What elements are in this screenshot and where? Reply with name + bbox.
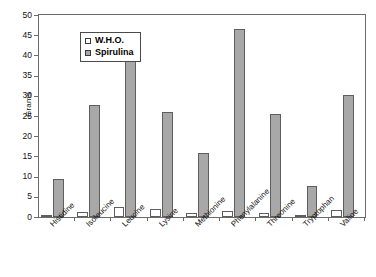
x-tick-mark	[328, 217, 329, 221]
bar-spirulina	[343, 95, 354, 217]
x-tick-mark	[364, 217, 365, 221]
y-tick-label: 10	[10, 172, 32, 181]
x-tick-mark	[183, 217, 184, 221]
bar-group	[39, 15, 75, 217]
bar-who	[295, 215, 306, 217]
bar-group	[256, 15, 292, 217]
x-tick-mark	[255, 217, 256, 221]
bar-spirulina	[162, 112, 173, 217]
bar-who	[331, 210, 342, 217]
y-tick-label: 50	[10, 11, 32, 20]
plot-area: W.H.O. Spirulina	[38, 14, 366, 218]
bar-spirulina	[125, 44, 136, 217]
legend-item-spirulina: Spirulina	[85, 48, 134, 57]
y-tick-label: 25	[10, 112, 32, 121]
bar-spirulina	[270, 114, 281, 217]
x-tick-mark	[110, 217, 111, 221]
y-tick-label: 5	[10, 192, 32, 201]
legend-swatch-spirulina-icon	[85, 50, 91, 56]
bar-group	[293, 15, 329, 217]
y-axis-title: Grams	[24, 75, 33, 135]
bar-who	[259, 213, 270, 217]
y-tick-label: 30	[10, 91, 32, 100]
bar-who	[150, 209, 161, 217]
x-tick-mark	[147, 217, 148, 221]
bar-spirulina	[89, 105, 100, 217]
bar-who	[222, 211, 233, 217]
y-tick-label: 40	[10, 51, 32, 60]
chart-legend: W.H.O. Spirulina	[80, 32, 141, 62]
x-tick-mark	[74, 217, 75, 221]
x-tick-mark	[292, 217, 293, 221]
bar-who	[114, 207, 125, 217]
legend-label-spirulina: Spirulina	[95, 48, 134, 57]
y-tick-label: 35	[10, 71, 32, 80]
bar-spirulina	[234, 29, 245, 217]
y-tick-label: 0	[10, 213, 32, 222]
bar-group	[220, 15, 256, 217]
x-tick-mark	[219, 217, 220, 221]
bar-group	[148, 15, 184, 217]
legend-swatch-who-icon	[85, 38, 91, 44]
bar-who	[41, 215, 52, 217]
legend-item-who: W.H.O.	[85, 36, 134, 45]
y-tick-label: 15	[10, 152, 32, 161]
y-tick-label: 45	[10, 31, 32, 40]
bar-chart: Grams 50454035302520151050 W.H.O. Spirul…	[0, 0, 376, 277]
y-tick-label: 20	[10, 132, 32, 141]
bar-who	[186, 213, 197, 217]
bar-group	[184, 15, 220, 217]
bar-group	[329, 15, 365, 217]
bar-who	[77, 212, 88, 217]
legend-label-who: W.H.O.	[95, 36, 124, 45]
